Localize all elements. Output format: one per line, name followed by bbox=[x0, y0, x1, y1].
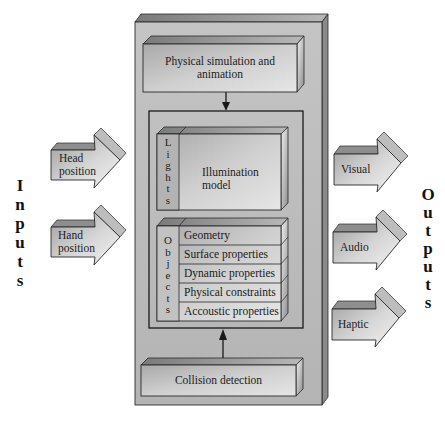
objects-letter: c bbox=[161, 281, 175, 293]
outputs-letter: O bbox=[418, 186, 438, 204]
outputs-letter: t bbox=[418, 276, 438, 294]
inputs-side-label: I n p u t s bbox=[10, 176, 30, 290]
outputs-letter: u bbox=[418, 258, 438, 276]
objects-letter: j bbox=[161, 258, 175, 270]
label-line: Hand bbox=[58, 229, 95, 242]
inputs-letter: p bbox=[10, 214, 30, 233]
objects-tab-label: O b j e c t s bbox=[161, 235, 175, 316]
label-line: position bbox=[58, 242, 95, 255]
label-line: Illumination bbox=[202, 166, 259, 179]
output-arrow-audio bbox=[333, 210, 407, 270]
output-audio-label: Audio bbox=[340, 241, 369, 254]
lights-letter: L bbox=[161, 137, 175, 149]
label-line: Head bbox=[59, 152, 96, 165]
illumination-model-label: Illumination model bbox=[202, 166, 259, 192]
output-visual-label: Visual bbox=[341, 163, 370, 176]
lights-letter: s bbox=[161, 195, 175, 207]
input-hand-position-label: Hand position bbox=[58, 229, 95, 255]
lights-letter: t bbox=[161, 183, 175, 195]
outputs-letter: t bbox=[418, 222, 438, 240]
lights-tab-label: L i g h t s bbox=[161, 137, 175, 206]
inputs-letter: I bbox=[10, 176, 30, 195]
objects-letter: s bbox=[161, 304, 175, 316]
inputs-letter: s bbox=[10, 271, 30, 290]
outputs-side-label: O u t p u t s bbox=[418, 186, 438, 312]
property-dynamic: Dynamic properties bbox=[184, 264, 281, 283]
simulation-label: Physical simulation and animation bbox=[143, 55, 297, 81]
collision-detection-label: Collision detection bbox=[141, 374, 296, 387]
label-line: position bbox=[59, 165, 96, 178]
objects-property-list: Geometry Surface properties Dynamic prop… bbox=[184, 226, 281, 321]
property-surface: Surface properties bbox=[184, 245, 281, 264]
outputs-letter: p bbox=[418, 240, 438, 258]
output-arrow-visual bbox=[334, 132, 408, 192]
property-physical-constraints: Physical constraints bbox=[184, 283, 281, 302]
label-line: animation bbox=[143, 68, 297, 81]
inputs-letter: u bbox=[10, 233, 30, 252]
output-haptic-label: Haptic bbox=[338, 318, 369, 331]
label-line: Physical simulation and bbox=[143, 55, 297, 68]
lights-letter: g bbox=[161, 160, 175, 172]
output-arrow-haptic bbox=[332, 287, 406, 347]
property-geometry: Geometry bbox=[184, 226, 281, 245]
inputs-letter: t bbox=[10, 252, 30, 271]
input-head-position-label: Head position bbox=[59, 152, 96, 178]
outputs-letter: u bbox=[418, 204, 438, 222]
outputs-letter: s bbox=[418, 294, 438, 312]
label-line: model bbox=[202, 179, 259, 192]
inputs-letter: n bbox=[10, 195, 30, 214]
property-acoustic: Accoustic properties bbox=[184, 302, 281, 321]
objects-letter: O bbox=[161, 235, 175, 247]
